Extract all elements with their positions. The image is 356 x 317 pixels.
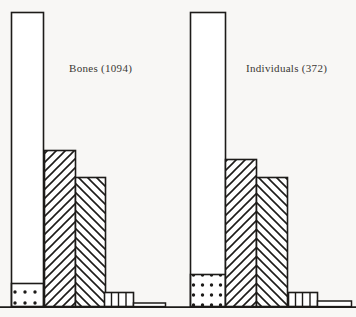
bar-individuals-1[interactable] xyxy=(191,13,226,307)
bar-individuals-3[interactable] xyxy=(257,178,288,307)
chart-canvas xyxy=(0,0,356,317)
bar-group-individuals xyxy=(191,13,352,307)
bar-bones-4[interactable] xyxy=(105,293,134,307)
bar-individuals-4[interactable] xyxy=(289,293,318,307)
bar-bones-5[interactable] xyxy=(134,303,166,307)
bar-individuals-1-dotted-base xyxy=(192,275,225,307)
bar-bones-1[interactable] xyxy=(12,13,44,307)
bar-individuals-5[interactable] xyxy=(318,301,352,307)
bar-group-bones xyxy=(12,13,166,307)
bar-bones-2[interactable] xyxy=(45,151,76,307)
bar-bones-1-dotted-base xyxy=(13,284,43,307)
bar-individuals-2[interactable] xyxy=(226,160,257,307)
group-label-individuals: Individuals (372) xyxy=(246,62,327,74)
group-label-bones: Bones (1094) xyxy=(69,62,132,74)
bar-bones-3[interactable] xyxy=(76,178,106,307)
histogram-figure: Bones (1094) Individuals (372) xyxy=(0,0,356,317)
